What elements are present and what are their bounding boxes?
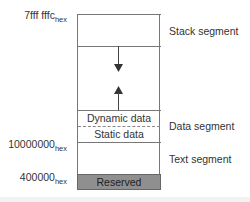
stack-boundary [77, 46, 161, 47]
bottom-strip [0, 197, 250, 202]
stack-segment-label: Stack segment [169, 25, 238, 37]
dynamic-data-cell: Dynamic data [78, 111, 160, 125]
reserved-cell: Reserved [77, 174, 161, 190]
address-text-start: 400000hex [20, 171, 67, 188]
top-edge [77, 14, 161, 15]
data-segment-label: Data segment [169, 120, 234, 132]
text-segment-label: Text segment [169, 153, 231, 165]
address-stack-top: 7fff fffchex [24, 9, 67, 26]
static-data-cell: Static data [78, 127, 160, 141]
arrow-down-icon [114, 64, 123, 72]
stack-arrow-line [118, 46, 119, 66]
address-data-start: 10000000hex [8, 138, 67, 155]
heap-arrow-line [118, 92, 119, 110]
data-text-boundary [77, 142, 161, 143]
